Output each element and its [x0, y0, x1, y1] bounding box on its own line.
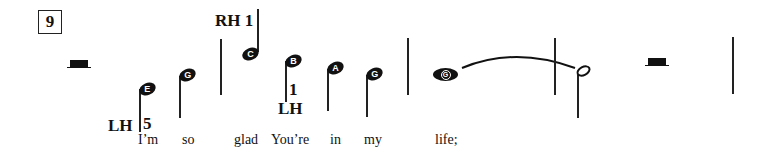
finger-number: 5 [143, 115, 152, 132]
lyric-word: You’re [271, 133, 309, 147]
barline [220, 39, 222, 95]
lyric-word: my [364, 133, 382, 147]
half-rest-icon [70, 60, 88, 67]
lyric-word: I’m [138, 133, 158, 147]
half-rest-icon [648, 58, 666, 65]
measure-number: 9 [46, 12, 55, 32]
lyric-word: glad [234, 133, 258, 147]
barline [407, 38, 409, 95]
finger-number: 1 [289, 81, 298, 98]
lyric-word: in [330, 133, 341, 147]
note-stem [257, 9, 259, 52]
lyric-word: life; [435, 133, 458, 147]
lyric-word: so [182, 133, 194, 147]
note-stem [285, 61, 287, 102]
lh-label: LH [108, 117, 133, 134]
note-stem [366, 75, 368, 117]
barline [554, 38, 556, 95]
note-stem [577, 75, 579, 118]
tie-icon [455, 50, 585, 80]
note-stem [139, 89, 141, 132]
measure-number-box: 9 [38, 10, 62, 34]
note-stem [327, 69, 329, 111]
rh-fingering: RH 1 [215, 12, 253, 29]
barline [732, 37, 734, 94]
note-stem [179, 76, 181, 118]
lh-label: LH [278, 100, 303, 117]
